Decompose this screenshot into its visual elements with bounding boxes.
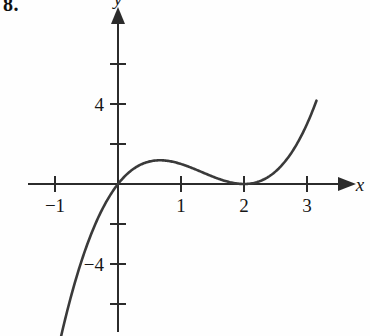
y-tick-label-4: 4 — [95, 94, 105, 115]
x-tick-label-1: 1 — [176, 195, 186, 216]
x-axis-arrow-icon — [338, 177, 356, 191]
x-tick-label-2: 2 — [239, 195, 249, 216]
cubic-curve — [61, 101, 316, 336]
y-axis-arrow-icon — [111, 7, 125, 24]
x-axis-label: x — [355, 174, 365, 195]
y-tick-label-minus4: −4 — [84, 254, 105, 275]
y-axis-label: y — [112, 0, 123, 9]
cubic-function-graph: −1 1 2 3 4 −4 x y — [0, 0, 370, 336]
figure-container: 8. −1 1 2 3 4 −4 x y — [0, 0, 370, 336]
x-tick-label-3: 3 — [302, 195, 312, 216]
x-tick-label-minus1: −1 — [45, 195, 65, 216]
